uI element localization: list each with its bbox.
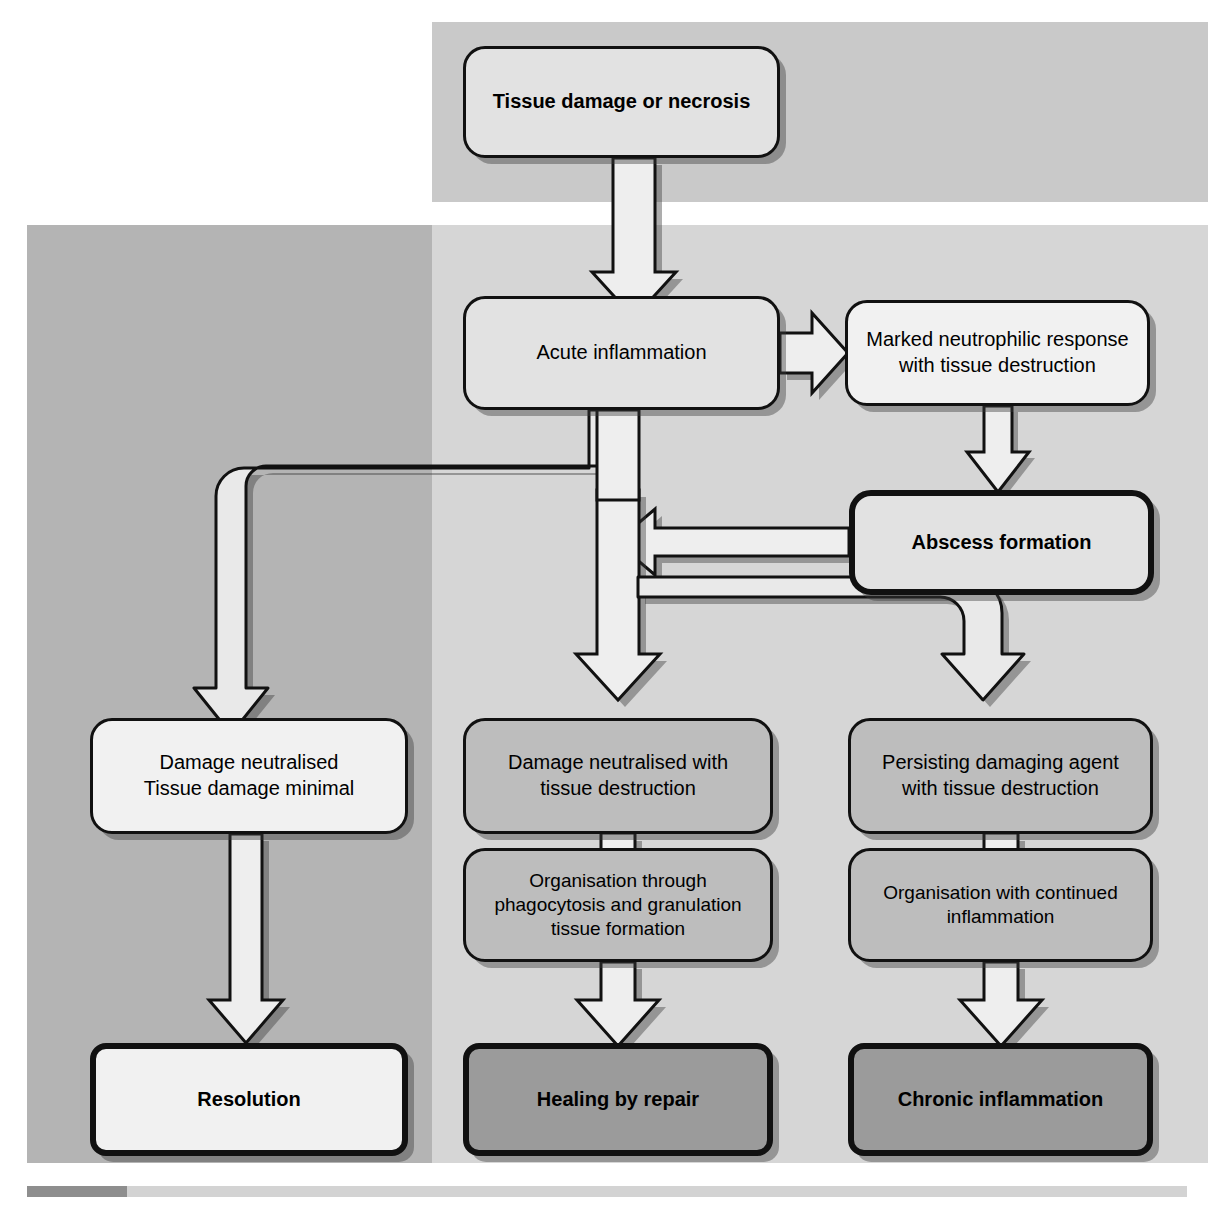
- node-label: Persisting damaging agent with tissue de…: [861, 750, 1140, 801]
- node-label: Tissue damage or necrosis: [476, 89, 767, 115]
- background-bottom-strip: [27, 1186, 1187, 1197]
- background-panel-left: [27, 225, 432, 1163]
- node-label-line3: tissue formation: [551, 918, 685, 939]
- node-label: Damage neutralised with tissue destructi…: [476, 750, 760, 801]
- node-label: Resolution: [106, 1087, 392, 1113]
- node-resolution: Resolution: [90, 1043, 408, 1156]
- node-label: Chronic inflammation: [864, 1087, 1137, 1113]
- background-bottom-strip-accent: [27, 1186, 127, 1197]
- node-damage-neutralised-with-tissue-destruction: Damage neutralised with tissue destructi…: [463, 718, 773, 834]
- node-label: Healing by repair: [479, 1087, 757, 1113]
- node-label-line1: Damage neutralised: [160, 751, 339, 773]
- node-label-line1: Organisation with continued: [883, 882, 1117, 903]
- node-abscess-formation: Abscess formation: [849, 490, 1154, 595]
- node-tissue-damage-or-necrosis: Tissue damage or necrosis: [463, 46, 780, 158]
- node-organisation-through-phagocytosis: Organisation through phagocytosis and gr…: [463, 848, 773, 962]
- node-label: Organisation through phagocytosis and gr…: [476, 869, 760, 942]
- node-persisting-damaging-agent: Persisting damaging agent with tissue de…: [848, 718, 1153, 834]
- node-label: Marked neutrophilic response with tissue…: [858, 327, 1137, 378]
- node-marked-neutrophilic-response: Marked neutrophilic response with tissue…: [845, 300, 1150, 406]
- node-label-line2: tissue destruction: [540, 777, 696, 799]
- node-acute-inflammation: Acute inflammation: [463, 296, 780, 410]
- node-label-line2: phagocytosis and granulation: [494, 894, 741, 915]
- node-label-line1: Organisation through: [529, 870, 706, 891]
- node-label: Abscess formation: [865, 530, 1138, 556]
- node-label: Acute inflammation: [476, 340, 767, 366]
- node-label-line2: with tissue destruction: [899, 354, 1096, 376]
- node-chronic-inflammation: Chronic inflammation: [848, 1043, 1153, 1156]
- flowchart-page: .sh { fill:#3c3c3c; fill-opacity:.42; } …: [0, 0, 1208, 1205]
- node-damage-neutralised-tissue-damage-minimal: Damage neutralised Tissue damage minimal: [90, 718, 408, 834]
- node-label-line1: Damage neutralised with: [508, 751, 728, 773]
- node-label-line1: Marked neutrophilic response: [866, 328, 1128, 350]
- node-label: Organisation with continued inflammation: [861, 881, 1140, 930]
- node-label-line2: with tissue destruction: [902, 777, 1099, 799]
- node-organisation-with-continued-inflammation: Organisation with continued inflammation: [848, 848, 1153, 962]
- node-label-line2: inflammation: [947, 906, 1055, 927]
- node-label: Damage neutralised Tissue damage minimal: [103, 750, 395, 801]
- node-label-line1: Persisting damaging agent: [882, 751, 1119, 773]
- node-label-line2: Tissue damage minimal: [144, 777, 354, 799]
- node-healing-by-repair: Healing by repair: [463, 1043, 773, 1156]
